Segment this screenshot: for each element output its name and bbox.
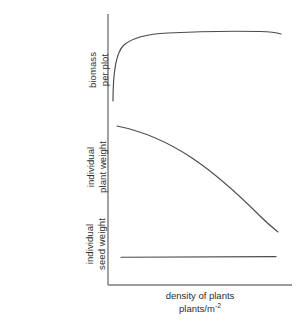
x-axis-caption: density of plants plants/m-2 (108, 289, 292, 315)
curve-individual-plant-weight (117, 126, 278, 232)
plot-canvas (0, 0, 305, 330)
curve-biomass-per-plot (113, 31, 281, 101)
plant-density-figure: biomass per plot individual plant weight… (0, 0, 305, 330)
y-axis-label-seed-weight-line2: seed weight (96, 192, 108, 296)
curve-individual-seed-weight (121, 257, 276, 258)
y-axis-label-biomass-line2: per plot (99, 22, 111, 118)
x-axis-caption-line2: plants/m-2 (108, 302, 292, 315)
y-axis-label-biomass-line1: biomass (87, 22, 99, 118)
y-axis-label-seed-weight-line1: individual (84, 192, 96, 296)
x-axis-caption-units: plants/m (179, 303, 215, 314)
y-axis-label-biomass-per-plot: biomass per plot (87, 22, 113, 118)
x-axis-caption-exponent: -2 (215, 302, 221, 309)
y-axis-label-individual-seed-weight: individual seed weight (84, 192, 110, 296)
x-axis-caption-line1: density of plants (108, 289, 292, 302)
